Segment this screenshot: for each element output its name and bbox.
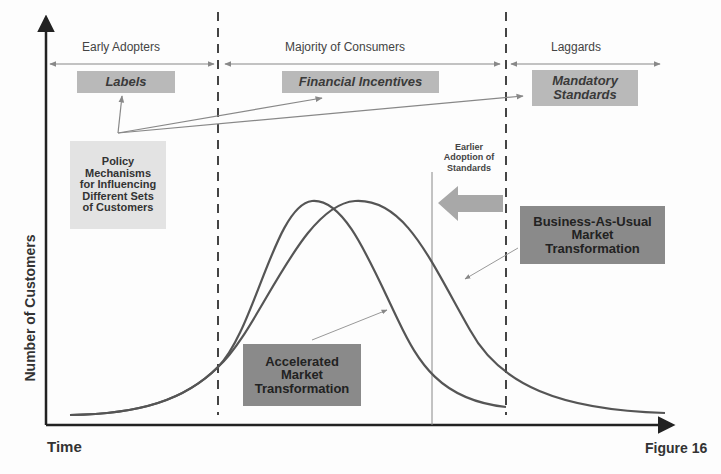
financial-incentives-text: Financial Incentives: [299, 75, 423, 89]
bau-line: Market: [572, 228, 614, 242]
earlier-adoption-line: Standards: [447, 163, 491, 173]
earlier-adoption-line: Earlier: [455, 142, 483, 152]
accelerated-market-box: Accelerated Market Transformation: [243, 344, 361, 406]
pointer-accel-to-curve: [312, 310, 387, 340]
earlier-adoption-line: Adoption of: [444, 152, 494, 162]
bau-line: Business-As-Usual: [533, 215, 651, 229]
mandatory-standards-box: Mandatory Standards: [532, 70, 638, 106]
pointer-to-financial: [118, 98, 322, 133]
policy-note-line: Policy: [102, 156, 134, 168]
mandatory-text: Mandatory: [552, 74, 618, 88]
policy-mechanisms-note: Policy Mechanisms for Influencing Differ…: [70, 141, 166, 229]
earlier-adoption-note: Earlier Adoption of Standards: [433, 142, 505, 173]
earlier-adoption-arrow: [438, 186, 503, 221]
accel-line: Market: [281, 368, 323, 382]
policy-note-line: of Customers: [83, 202, 154, 214]
segment-laggards: Laggards: [551, 40, 601, 54]
labels-box: Labels: [77, 71, 175, 93]
pointer-to-labels: [118, 96, 122, 133]
bau-line: Transformation: [545, 242, 640, 256]
figure-label: Figure 16: [645, 440, 707, 456]
standards-text: Standards: [553, 88, 617, 102]
business-as-usual-box: Business-As-Usual Market Transformation: [520, 206, 665, 264]
pointer-bau-to-curve: [465, 248, 518, 279]
labels-text: Labels: [105, 75, 146, 89]
pointer-to-mandatory: [118, 96, 523, 133]
accel-line: Accelerated: [265, 355, 339, 369]
x-axis-label: Time: [47, 438, 82, 455]
segment-early-adopters: Early Adopters: [82, 40, 160, 54]
financial-incentives-box: Financial Incentives: [282, 71, 439, 93]
accel-line: Transformation: [255, 382, 350, 396]
segment-majority: Majority of Consumers: [285, 40, 405, 54]
y-axis-label: Number of Customers: [22, 228, 38, 388]
